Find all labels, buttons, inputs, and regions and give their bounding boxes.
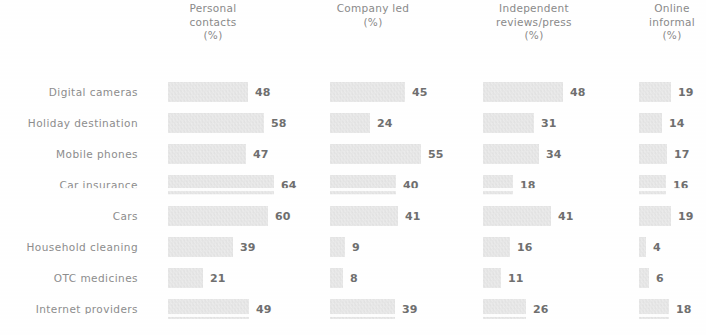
bar <box>483 175 513 195</box>
bar <box>168 237 233 257</box>
bar-group: 19 <box>639 82 694 102</box>
bar-value-label: 18 <box>520 179 536 192</box>
row-label: Holiday destination <box>0 116 138 130</box>
bar-value-label: 8 <box>350 272 358 285</box>
chart-row: Internet providers49392618 <box>0 295 706 326</box>
bar <box>330 113 370 133</box>
bar-value-label: 41 <box>558 210 574 223</box>
bar-group: 34 <box>483 144 562 164</box>
bar-value-label: 49 <box>256 303 272 316</box>
chart-row: Holiday destination58243114 <box>0 109 706 140</box>
bar <box>483 237 510 257</box>
bar-value-label: 64 <box>281 179 297 192</box>
bar-group: 45 <box>330 82 428 102</box>
bar-group: 17 <box>639 144 690 164</box>
column-header-4: Onlineinformal(%) <box>617 2 706 43</box>
bar-value-label: 60 <box>275 210 291 223</box>
bar-value-label: 17 <box>674 148 690 161</box>
column-header-line: (%) <box>617 29 706 43</box>
row-label: Digital cameras <box>0 85 138 99</box>
bar-value-label: 47 <box>253 148 269 161</box>
bar <box>330 82 405 102</box>
row-label: Car insurance <box>0 178 138 192</box>
bar-group: 18 <box>483 175 536 195</box>
column-header-line: (%) <box>459 29 609 43</box>
bar-group: 11 <box>483 268 524 288</box>
scan-streak-artifact <box>0 320 706 322</box>
bar <box>330 206 398 226</box>
bar-group: 21 <box>168 268 226 288</box>
bar <box>483 299 526 319</box>
bar-group: 40 <box>330 175 419 195</box>
row-label: Household cleaning <box>0 240 138 254</box>
bar-value-label: 34 <box>546 148 562 161</box>
column-header-1: Personalcontacts(%) <box>148 2 278 43</box>
bar-group: 16 <box>639 175 689 195</box>
chart-row: Mobile phones47553417 <box>0 140 706 171</box>
bar-group: 48 <box>483 82 586 102</box>
bar-group: 60 <box>168 206 291 226</box>
chart-row: Cars60414119 <box>0 202 706 233</box>
column-header-line: contacts <box>148 16 278 30</box>
bar <box>639 175 666 195</box>
column-header-line: (%) <box>148 29 278 43</box>
column-header-line: Independent <box>459 2 609 16</box>
bar <box>168 113 264 133</box>
column-header-2: Company led(%) <box>308 2 438 29</box>
bar-group: 8 <box>330 268 358 288</box>
bar-value-label: 26 <box>533 303 549 316</box>
bar-value-label: 18 <box>676 303 692 316</box>
bar-group: 26 <box>483 299 549 319</box>
bar <box>483 82 563 102</box>
bar-group: 16 <box>483 237 533 257</box>
bar-value-label: 58 <box>271 117 287 130</box>
bar-value-label: 39 <box>240 241 256 254</box>
bar <box>483 113 534 133</box>
column-header-line: (%) <box>308 16 438 30</box>
row-label: Internet providers <box>0 302 138 316</box>
bar-value-label: 48 <box>570 86 586 99</box>
bar-group: 9 <box>330 237 360 257</box>
chart-row: Car insurance64401816 <box>0 171 706 202</box>
row-label: OTC medicines <box>0 271 138 285</box>
bar-group: 47 <box>168 144 269 164</box>
row-label: Mobile phones <box>0 147 138 161</box>
bar <box>168 299 249 319</box>
bar-value-label: 14 <box>669 117 685 130</box>
chart-row: OTC medicines218116 <box>0 264 706 295</box>
bar <box>639 299 669 319</box>
bar-group: 6 <box>639 268 664 288</box>
column-headers: Personalcontacts(%)Company led(%)Indepen… <box>0 0 706 62</box>
bar-value-label: 39 <box>402 303 418 316</box>
bar <box>168 206 268 226</box>
bar <box>639 237 646 257</box>
bar-value-label: 16 <box>517 241 533 254</box>
bar-group: 48 <box>168 82 271 102</box>
bar-group: 64 <box>168 175 297 195</box>
bar-value-label: 11 <box>508 272 524 285</box>
bar-group: 18 <box>639 299 692 319</box>
column-header-3: Independentreviews/press(%) <box>459 2 609 43</box>
column-header-line: informal <box>617 16 706 30</box>
bar-value-label: 31 <box>541 117 557 130</box>
bar <box>483 206 551 226</box>
bar <box>639 113 662 133</box>
bar-group: 39 <box>168 237 256 257</box>
bar-group: 19 <box>639 206 694 226</box>
chart-row: Household cleaning399164 <box>0 233 706 264</box>
bar-value-label: 19 <box>678 86 694 99</box>
bar <box>483 268 501 288</box>
bar-value-label: 21 <box>210 272 226 285</box>
chart-rows: Digital cameras48454819Holiday destinati… <box>0 78 706 326</box>
chart-row: Digital cameras48454819 <box>0 78 706 109</box>
bar-group: 14 <box>639 113 685 133</box>
bar-value-label: 48 <box>255 86 271 99</box>
bar <box>330 237 345 257</box>
bar <box>330 268 343 288</box>
bar <box>330 175 396 195</box>
column-header-line: Online <box>617 2 706 16</box>
bar-group: 24 <box>330 113 393 133</box>
bar-value-label: 19 <box>678 210 694 223</box>
bar-value-label: 41 <box>405 210 421 223</box>
bar <box>639 144 667 164</box>
